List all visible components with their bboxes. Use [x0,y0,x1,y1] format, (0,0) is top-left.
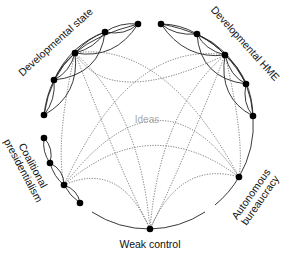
ideas-network-diagram: Ideas Developmental state Developmental … [0,0,294,261]
node-developmental-state-2 [102,29,109,36]
outer-ring [92,116,253,229]
nodes [41,21,257,233]
developmental-state-label: Developmental state [16,5,95,78]
node-coalitional-1 [41,135,48,142]
node-coalitional-4 [77,200,84,207]
node-developmental-state-3 [72,50,79,57]
developmental-hme-label: Developmental HME [209,4,282,84]
node-developmental-hme-5 [250,113,257,120]
node-coalitional-3 [61,182,68,189]
ideas-links [61,52,240,229]
weak-control-label: Weak control [119,238,180,250]
node-weak-control [147,226,154,233]
coalitional-presidentialism-links [44,138,80,203]
node-developmental-state-5 [41,112,48,119]
node-autonomous-bureaucracy [236,174,243,181]
node-developmental-hme-2 [194,31,201,38]
node-developmental-hme-3 [222,52,229,59]
node-developmental-state-1 [135,21,142,28]
ideas-label: Ideas [135,114,159,125]
node-developmental-hme-4 [243,81,250,88]
node-coalitional-2 [47,160,54,167]
node-developmental-state-4 [51,77,58,84]
node-developmental-hme-1 [158,21,165,28]
